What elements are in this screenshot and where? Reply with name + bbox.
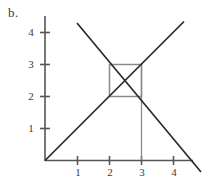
x-tick-label-2: 2 — [103, 166, 117, 178]
y-tick-label-4: 4 — [24, 26, 38, 38]
x-tick-label-3: 3 — [135, 166, 149, 178]
y-tick-label-1: 1 — [24, 122, 38, 134]
figure-label: b. — [8, 5, 19, 21]
x-tick-label-4: 4 — [167, 166, 181, 178]
x-tick-label-1: 1 — [71, 166, 85, 178]
figure-panel: b. 4 3 2 1 1 2 3 4 — [0, 0, 221, 184]
y-tick-label-2: 2 — [24, 90, 38, 102]
y-tick-label-3: 3 — [24, 58, 38, 70]
descending-line — [77, 23, 201, 172]
ascending-line — [45, 22, 184, 161]
